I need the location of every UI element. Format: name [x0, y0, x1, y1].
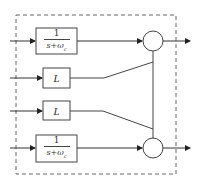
transfer-function-label-bottom: 1 s+ωc — [36, 135, 77, 162]
transfer-function-label-top: 1 s+ωc — [36, 28, 77, 54]
cross-line-upper — [70, 62, 153, 78]
denominator: s+ωc — [46, 41, 66, 54]
fraction-bar — [44, 146, 70, 147]
cross-line-lower — [70, 111, 153, 129]
fraction-bar — [44, 39, 70, 40]
block-diagram — [0, 0, 201, 186]
summing-junction-top — [143, 31, 163, 51]
summing-junction-bottom — [143, 138, 163, 158]
denominator-text: s+ω — [46, 148, 63, 157]
subscript: c — [64, 45, 67, 51]
numerator: 1 — [54, 136, 60, 145]
gain-label-lower: L — [43, 103, 70, 119]
numerator: 1 — [54, 29, 60, 38]
subscript: c — [64, 153, 67, 159]
gain-label-upper: L — [43, 70, 70, 86]
denominator-text: s+ω — [46, 41, 63, 50]
denominator: s+ωc — [46, 148, 66, 161]
